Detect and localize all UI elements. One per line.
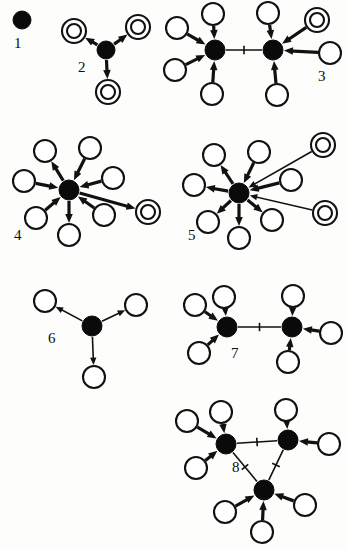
diagram-3-hub-node-1 bbox=[263, 40, 283, 60]
diagram-8-leaf-node-7 bbox=[214, 501, 236, 523]
diagram-5-arrowhead-3 bbox=[206, 185, 216, 192]
diagram-5-leaf-node-4 bbox=[197, 211, 219, 233]
diagram-7-arrowhead-4 bbox=[303, 326, 312, 333]
diagram-3-arrowhead-3 bbox=[210, 61, 218, 70]
diagram-7-arrowhead-3 bbox=[289, 307, 297, 316]
diagram-4-leaf-node-3 bbox=[13, 170, 35, 192]
diagram-7-leaf-node-1 bbox=[184, 294, 206, 316]
diagram-5-ring-node-inner-0 bbox=[316, 138, 330, 152]
diagram-2-label: 2 bbox=[78, 59, 86, 75]
graph-canvas: 12345678 bbox=[0, 0, 348, 549]
diagram-8-hub-node-2 bbox=[254, 480, 274, 500]
diagram-4 bbox=[13, 137, 160, 246]
diagram-1 bbox=[13, 11, 31, 29]
diagram-2-arrowhead-2 bbox=[103, 70, 111, 79]
diagram-3-leaf-node-1 bbox=[166, 17, 188, 39]
diagram-4-leaf-node-0 bbox=[34, 140, 56, 162]
diagram-4-leaf-node-4 bbox=[25, 207, 47, 229]
diagram-4-leaf-node-5 bbox=[58, 224, 80, 246]
diagram-5-edge-8 bbox=[254, 196, 313, 210]
diagram-5 bbox=[183, 133, 337, 249]
diagram-7-leaf-node-3 bbox=[282, 285, 304, 307]
diagram-4-arrowhead-3 bbox=[49, 182, 59, 189]
diagram-8-leaf-node-6 bbox=[251, 521, 273, 543]
diagram-7 bbox=[184, 285, 342, 373]
diagram-1-hub-node-0 bbox=[13, 11, 31, 29]
diagram-6-arrowhead-2 bbox=[90, 357, 96, 365]
diagram-6-label: 6 bbox=[48, 330, 56, 346]
diagram-8-arrowhead-4 bbox=[299, 438, 308, 446]
diagram-7-leaf-node-5 bbox=[277, 351, 299, 373]
diagram-4-arrowhead-7 bbox=[126, 202, 136, 209]
diagram-5-leaf-node-0 bbox=[203, 144, 225, 166]
diagram-4-edges bbox=[36, 159, 136, 223]
diagram-5-leaf-node-5 bbox=[228, 227, 250, 249]
figure-root: 12345678 bbox=[0, 0, 348, 549]
diagram-8-arrowhead-6 bbox=[259, 501, 267, 510]
diagram-2 bbox=[62, 15, 150, 104]
diagram-3-arrowhead-7 bbox=[271, 61, 279, 70]
diagram-8-leaf-node-1 bbox=[176, 410, 198, 432]
diagram-7-leaf-node-0 bbox=[213, 286, 235, 308]
diagram-8-hub-node-0 bbox=[216, 434, 236, 454]
diagram-3 bbox=[164, 2, 341, 106]
diagram-3-leaf-node-3 bbox=[201, 83, 223, 105]
diagram-7-hub-node-0 bbox=[217, 317, 237, 337]
diagram-4-ring-node-inner-0 bbox=[141, 205, 155, 219]
diagram-8-leaf-node-3 bbox=[275, 399, 297, 421]
diagram-1-nodes bbox=[13, 11, 31, 29]
diagram-6-leaf-node-1 bbox=[125, 294, 147, 316]
diagram-2-nodes bbox=[62, 15, 150, 104]
diagram-8-leaf-node-5 bbox=[294, 494, 316, 516]
diagram-5-label: 5 bbox=[188, 227, 196, 243]
diagram-7-leaf-node-4 bbox=[320, 322, 342, 344]
edges-layer bbox=[13, 2, 342, 543]
diagram-3-arrowhead-4 bbox=[267, 30, 274, 39]
diagram-8-nodes bbox=[176, 399, 340, 543]
diagram-7-label: 7 bbox=[231, 345, 239, 361]
diagram-4-arrowhead-2 bbox=[80, 181, 90, 188]
diagram-4-leaf-node-6 bbox=[93, 204, 115, 226]
diagram-3-hub-node-0 bbox=[205, 40, 225, 60]
diagram-3-edge-6 bbox=[289, 51, 318, 53]
diagram-5-leaf-node-6 bbox=[261, 209, 283, 231]
diagram-3-label: 3 bbox=[318, 68, 326, 84]
diagram-6-edge-2 bbox=[92, 337, 93, 361]
diagram-8-label: 8 bbox=[232, 459, 240, 475]
diagram-8-edge-tick-8 bbox=[257, 438, 258, 446]
diagram-5-arrowhead-8 bbox=[250, 194, 258, 200]
diagram-6-edge-0 bbox=[59, 309, 82, 321]
diagram-5-hub-node-0 bbox=[229, 183, 249, 203]
diagram-3-arrowhead-6 bbox=[284, 47, 293, 55]
diagram-8 bbox=[176, 399, 340, 543]
diagram-6-leaf-node-0 bbox=[34, 290, 56, 312]
diagram-3-nodes bbox=[164, 2, 341, 106]
diagram-5-leaf-node-1 bbox=[248, 141, 270, 163]
diagram-5-leaf-node-3 bbox=[183, 174, 205, 196]
diagram-5-arrowhead-5 bbox=[235, 217, 243, 226]
diagram-8-arrowhead-5 bbox=[274, 493, 284, 500]
diagram-3-leaf-node-4 bbox=[257, 2, 279, 24]
diagram-3-leaf-node-0 bbox=[202, 3, 224, 25]
diagram-7-nodes bbox=[184, 285, 342, 373]
diagram-2-ring-node-inner-1 bbox=[131, 20, 145, 34]
diagram-4-arrowhead-5 bbox=[65, 214, 73, 223]
diagram-1-label: 1 bbox=[14, 35, 22, 51]
diagram-3-leaf-node-2 bbox=[164, 59, 186, 81]
diagram-4-leaf-node-1 bbox=[79, 137, 101, 159]
diagram-4-leaf-node-2 bbox=[102, 167, 124, 189]
diagram-3-leaf-node-6 bbox=[266, 84, 288, 106]
diagram-7-leaf-node-2 bbox=[188, 342, 210, 364]
diagram-2-hub-node-0 bbox=[97, 41, 115, 59]
diagram-2-ring-node-inner-0 bbox=[67, 24, 81, 38]
diagram-5-ring-node-inner-1 bbox=[318, 206, 332, 220]
diagram-6-leaf-node-2 bbox=[83, 366, 105, 388]
diagram-8-leaf-node-0 bbox=[210, 401, 232, 423]
diagram-5-leaf-node-2 bbox=[280, 169, 302, 191]
diagram-4-nodes bbox=[13, 137, 160, 246]
diagram-3-leaf-node-5 bbox=[319, 42, 341, 64]
diagram-7-arrowhead-5 bbox=[286, 338, 294, 347]
diagram-8-hub-node-1 bbox=[278, 430, 298, 450]
diagram-3-arrowhead-0 bbox=[210, 30, 218, 39]
diagram-8-leaf-node-2 bbox=[185, 457, 207, 479]
